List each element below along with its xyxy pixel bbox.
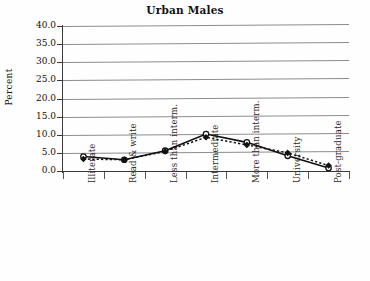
gridline (63, 97, 349, 100)
y-axis-tick-label: 10.0 (16, 130, 56, 139)
x-axis-tick (186, 172, 187, 179)
data-point-1-0 (81, 157, 86, 162)
x-axis-tick (104, 172, 105, 179)
gridline (63, 78, 349, 81)
gridline (63, 151, 349, 154)
x-axis-label-5: University (292, 136, 302, 183)
data-point-1-1 (122, 157, 127, 162)
y-axis-tick (57, 26, 63, 27)
data-point-0-6 (326, 165, 331, 170)
y-axis-tick-label: 25.0 (16, 75, 56, 84)
x-axis-tick (308, 172, 309, 179)
gridline (63, 133, 349, 136)
data-point-1-6 (326, 163, 331, 168)
y-axis-tick-label: 0.0 (16, 166, 56, 175)
y-axis-label: Percent (4, 57, 14, 117)
x-axis-label-1: Read & write (128, 123, 138, 183)
y-axis-tick-label: 35.0 (16, 39, 56, 48)
gridline (63, 24, 349, 27)
y-axis-tick (57, 117, 63, 118)
x-axis-tick (267, 172, 268, 179)
y-axis-tick-label: 5.0 (16, 148, 56, 157)
data-point-0-4 (244, 140, 249, 145)
y-axis-tick (57, 153, 63, 154)
y-axis-tick-label: 40.0 (16, 21, 56, 30)
y-axis-tick-label: 30.0 (16, 57, 56, 66)
y-axis-tick (57, 44, 63, 45)
data-point-0-0 (81, 154, 86, 159)
data-point-0-1 (122, 157, 127, 162)
x-axis-tick (226, 172, 227, 179)
x-axis-tick (349, 172, 350, 179)
gridline (63, 115, 349, 118)
data-point-0-5 (285, 153, 290, 158)
x-axis-label-3: Intermediate (210, 124, 220, 183)
x-axis-label-0: Illiterate (87, 143, 97, 183)
y-axis-tick (57, 135, 63, 136)
x-axis-tick (63, 172, 64, 179)
x-axis-tick (145, 172, 146, 179)
y-axis-tick-label: 15.0 (16, 112, 56, 121)
chart-title: Urban Males (0, 4, 370, 16)
y-axis-tick-label: 20.0 (16, 94, 56, 103)
chart-container: Urban Males Percent 0.05.010.015.020.025… (0, 0, 370, 281)
gridline (63, 60, 349, 63)
x-axis-line (62, 171, 350, 172)
gridline (63, 42, 349, 45)
x-axis-label-2: Less than interm. (169, 104, 179, 183)
y-axis-tick (57, 99, 63, 100)
y-axis-tick (57, 62, 63, 63)
y-axis-tick (57, 80, 63, 81)
data-point-1-3 (204, 135, 209, 140)
x-axis-label-6: Post-graduate (333, 120, 343, 183)
x-axis-label-4: More than interm. (251, 100, 261, 183)
data-point-1-4 (244, 142, 249, 147)
